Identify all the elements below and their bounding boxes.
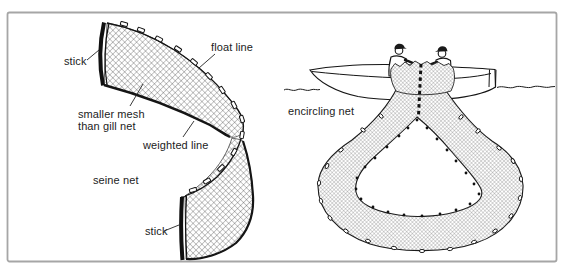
figure-canvas: stick float line smaller mesh than gill … bbox=[0, 0, 567, 271]
net-bunch bbox=[391, 61, 455, 95]
label-seine-net: seine net bbox=[93, 174, 139, 186]
nets-diagram bbox=[0, 0, 567, 271]
label-weighted-line: weighted line bbox=[143, 139, 209, 151]
label-smaller-mesh-line1: smaller mesh bbox=[78, 108, 145, 120]
label-smaller-mesh: smaller mesh than gill net bbox=[78, 108, 145, 132]
label-encircling-net: encircling net bbox=[288, 105, 354, 117]
label-float-line: float line bbox=[211, 41, 253, 53]
label-stick-bottom: stick bbox=[145, 225, 168, 237]
label-stick-top: stick bbox=[64, 55, 87, 67]
label-smaller-mesh-line2: than gill net bbox=[78, 120, 145, 132]
